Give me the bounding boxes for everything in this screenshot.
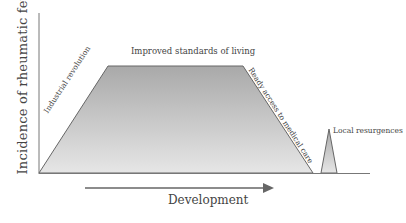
incidence-trapezoid	[39, 66, 313, 173]
development-arrow-head-icon	[263, 183, 274, 193]
y-axis-label: Incidence of rheumatic fever	[15, 15, 30, 175]
resurgence-peak	[321, 129, 337, 173]
resurgence-label: Local resurgences	[333, 126, 403, 135]
diagram-canvas	[0, 0, 406, 223]
x-axis-label: Development	[168, 193, 248, 207]
plateau-label: Improved standards of living	[131, 46, 255, 56]
